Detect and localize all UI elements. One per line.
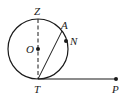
- label-p: P: [111, 83, 119, 95]
- label-a: A: [60, 19, 68, 31]
- label-o: O: [26, 43, 34, 55]
- point-n: [64, 39, 68, 43]
- point-o: [36, 47, 40, 51]
- label-n: N: [69, 35, 78, 47]
- label-t: T: [34, 83, 41, 95]
- point-p: [114, 77, 118, 81]
- label-z: Z: [34, 5, 41, 17]
- geometry-diagram: Z O A N T P: [0, 0, 130, 98]
